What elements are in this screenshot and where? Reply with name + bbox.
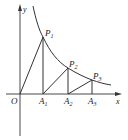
curve	[33, 6, 111, 85]
x-axis-label: x	[115, 97, 120, 106]
y-axis-label: y	[22, 5, 27, 14]
x-axis-arrow-icon	[115, 92, 122, 96]
foot-label-a2: A2	[63, 96, 73, 107]
origin-label: O	[11, 96, 18, 106]
diagram: y x O P1 P2 P3 A1 A2 A3	[0, 0, 128, 140]
point-label-p2: P2	[68, 59, 78, 70]
segment-o-p1	[20, 37, 43, 94]
segment-a2-p3	[68, 80, 92, 94]
foot-label-a3: A3	[87, 96, 97, 107]
foot-label-a1: A1	[38, 96, 48, 107]
point-label-p3: P3	[92, 71, 102, 82]
y-axis-arrow-icon	[18, 4, 22, 11]
segment-a1-p2	[43, 68, 68, 94]
point-label-p1: P1	[44, 28, 54, 39]
